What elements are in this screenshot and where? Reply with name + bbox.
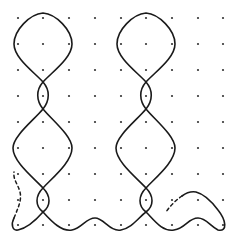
grid-dot bbox=[120, 173, 122, 175]
grid-dot bbox=[171, 121, 173, 123]
grid-dot bbox=[17, 121, 19, 123]
grid-dot bbox=[17, 43, 19, 45]
grid-dot bbox=[68, 224, 70, 226]
grid-dot bbox=[42, 173, 44, 175]
grid-dot bbox=[42, 147, 44, 149]
grid-dot bbox=[171, 224, 173, 226]
grid-dot bbox=[145, 199, 147, 201]
grid-dot bbox=[120, 95, 122, 97]
grid-dot bbox=[120, 43, 122, 45]
grid-dot bbox=[42, 43, 44, 45]
grid-dot bbox=[145, 69, 147, 71]
grid-dot bbox=[197, 95, 199, 97]
grid-dot bbox=[120, 69, 122, 71]
grid-dot bbox=[171, 43, 173, 45]
grid-dot bbox=[94, 121, 96, 123]
grid-dot bbox=[197, 17, 199, 19]
grid-dot bbox=[145, 17, 147, 19]
grid-dot bbox=[94, 69, 96, 71]
right-twisted-loop-figure bbox=[116, 13, 175, 212]
grid-dot bbox=[68, 121, 70, 123]
grid-dot bbox=[120, 121, 122, 123]
grid-dot bbox=[222, 95, 224, 97]
grid-dot bbox=[17, 17, 19, 19]
grid-dot bbox=[94, 43, 96, 45]
grid-dot bbox=[68, 17, 70, 19]
grid-dot bbox=[222, 121, 224, 123]
grid-dot bbox=[171, 69, 173, 71]
left-tail-curl bbox=[12, 212, 43, 230]
grid-dot bbox=[42, 17, 44, 19]
grid-dot bbox=[145, 95, 147, 97]
grid-dot bbox=[120, 147, 122, 149]
grid-dot bbox=[120, 224, 122, 226]
grid-dot bbox=[42, 69, 44, 71]
grid-dot bbox=[42, 199, 44, 201]
grid-dot bbox=[145, 173, 147, 175]
grid-dot bbox=[197, 173, 199, 175]
grid-dot bbox=[171, 199, 173, 201]
grid-dot bbox=[94, 224, 96, 226]
grid-dot bbox=[145, 224, 147, 226]
grid-dot bbox=[171, 95, 173, 97]
grid-dot bbox=[197, 224, 199, 226]
grid-dot bbox=[42, 224, 44, 226]
grid-dot bbox=[42, 95, 44, 97]
grid-dot bbox=[171, 173, 173, 175]
grid-dot bbox=[17, 147, 19, 149]
left-top-loop bbox=[14, 13, 72, 82]
grid-dot bbox=[222, 69, 224, 71]
kolam-diagram bbox=[0, 0, 237, 242]
grid-dot bbox=[222, 17, 224, 19]
grid-dot bbox=[68, 69, 70, 71]
grid-dot bbox=[68, 43, 70, 45]
grid-dot bbox=[222, 199, 224, 201]
grid-dot bbox=[197, 69, 199, 71]
grid-dot bbox=[197, 147, 199, 149]
grid-dot bbox=[94, 147, 96, 149]
grid-dot bbox=[68, 199, 70, 201]
grid-dot bbox=[68, 173, 70, 175]
right-dashed-continuation bbox=[166, 196, 182, 212]
grid-dot bbox=[17, 224, 19, 226]
grid-dot bbox=[171, 17, 173, 19]
grid-dot bbox=[145, 147, 147, 149]
grid-dot bbox=[222, 173, 224, 175]
left-dashed-continuation bbox=[14, 172, 21, 218]
grid-dot bbox=[94, 95, 96, 97]
grid-dot bbox=[68, 147, 70, 149]
grid-dot bbox=[171, 147, 173, 149]
grid-dot bbox=[120, 199, 122, 201]
grid-dot bbox=[197, 43, 199, 45]
grid-dot bbox=[197, 199, 199, 201]
grid-dot bbox=[145, 121, 147, 123]
grid-dot bbox=[222, 147, 224, 149]
grid-dot bbox=[222, 43, 224, 45]
grid-dot bbox=[197, 121, 199, 123]
grid-dot bbox=[42, 121, 44, 123]
grid-dot bbox=[17, 173, 19, 175]
grid-dot bbox=[94, 199, 96, 201]
grid-dot bbox=[145, 43, 147, 45]
grid-dot bbox=[17, 95, 19, 97]
grid-dot bbox=[17, 69, 19, 71]
right-top-loop bbox=[117, 13, 175, 82]
grid-dot bbox=[68, 95, 70, 97]
grid-dot bbox=[120, 17, 122, 19]
grid-dot bbox=[94, 173, 96, 175]
grid-dot bbox=[94, 17, 96, 19]
grid-dot bbox=[17, 199, 19, 201]
grid-dot bbox=[222, 224, 224, 226]
